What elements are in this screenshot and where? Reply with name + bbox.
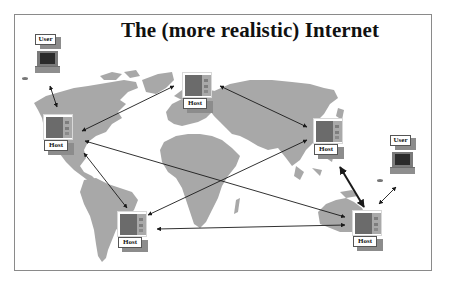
slide: The (more realistic) Internet User User … [0,0,449,283]
link-host-south-america-host-australia [157,225,345,229]
host-label: Host [44,140,68,151]
host-north-america[interactable]: Host [43,114,75,154]
mouse-icon [377,179,383,182]
user-label: User [35,34,56,45]
host-label: Host [183,98,207,109]
computer-terminal-icon [392,152,413,167]
link-user-right-host-australia [379,187,396,204]
user-top-left[interactable]: User [35,34,75,88]
mouse-icon [22,77,28,80]
host-australia[interactable]: Host [352,210,384,250]
madagascar-shape [234,198,240,214]
server-icon [117,211,147,237]
host-label: Host [353,236,377,247]
user-right[interactable]: User [390,135,430,189]
server-icon [182,72,212,98]
host-south-america[interactable]: Host [117,211,149,251]
slide-title: The (more realistic) Internet [120,18,380,43]
host-label: Host [314,144,338,155]
user-label: User [390,135,411,146]
host-label: Host [118,237,142,248]
host-europe[interactable]: Host [182,72,214,112]
greenland-shape [142,72,174,94]
server-icon [43,114,73,140]
host-asia[interactable]: Host [313,118,345,158]
server-icon [313,118,343,144]
computer-terminal-icon [37,51,58,66]
africa-shape [160,134,240,228]
server-icon [352,210,382,236]
